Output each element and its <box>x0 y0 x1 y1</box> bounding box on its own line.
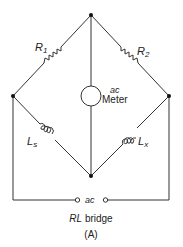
label-source-ac: ac <box>85 195 95 205</box>
node-right <box>167 94 171 98</box>
resistor-r1 <box>13 15 91 96</box>
caption-title: RL bridge <box>69 213 113 224</box>
inductor-ls <box>13 96 91 176</box>
terminal-right <box>103 198 107 202</box>
rl-bridge-diagram: R1 R2 Ls Lx ac Meter ac RL bridge (A) <box>0 0 183 247</box>
node-bottom <box>89 174 93 178</box>
inductor-lx <box>91 96 169 176</box>
resistor-r2 <box>91 15 169 96</box>
terminal-left <box>75 198 79 202</box>
label-lx: Lx <box>138 135 149 149</box>
node-left <box>11 94 15 98</box>
caption-subtitle: (A) <box>84 229 97 240</box>
ac-meter <box>81 15 101 176</box>
label-r2: R2 <box>137 45 150 59</box>
node-top <box>89 13 93 17</box>
label-meter: Meter <box>102 94 128 105</box>
label-r1: R1 <box>35 41 47 55</box>
label-ls: Ls <box>27 135 37 149</box>
